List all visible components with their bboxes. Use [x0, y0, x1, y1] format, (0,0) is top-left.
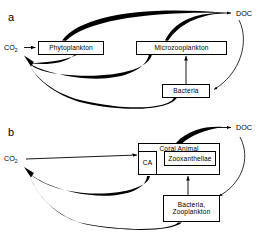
arrowhead-co2-a [24, 56, 34, 67]
node-microzooplankton-label: Microzooplankton [154, 44, 208, 51]
edge-co2-to-ca [26, 155, 137, 159]
node-bacteria-zooplankton-line2: Zooplankton [173, 208, 211, 215]
node-bacteria-label: Bacteria [173, 87, 198, 94]
edge-doc-to-bacteria [214, 20, 243, 90]
node-microzooplankton: Microzooplankton [136, 41, 227, 55]
node-phytoplankton-label: Phytoplankton [49, 44, 93, 51]
edge-bacteria-to-co2 [30, 65, 178, 109]
node-ca-label: CA [143, 159, 152, 166]
edge-coralanimal-to-doc [176, 127, 223, 144]
co2-label-a-sub: 2 [15, 47, 18, 53]
co2-label-b-sub: 2 [15, 158, 18, 164]
edge-phytoplankton-to-co2 [30, 55, 78, 65]
panel-letter-a: a [8, 11, 14, 23]
node-bacteria-zooplankton-line1: Bacteria, [178, 201, 205, 208]
node-zooxanthellae: Zooxanthellae [164, 151, 216, 166]
node-doc-b: DOC [236, 123, 252, 132]
edge-microzooplankton-to-co2 [30, 54, 152, 79]
edges-layer [0, 0, 271, 232]
node-phytoplankton: Phytoplankton [38, 41, 104, 55]
edge-bacteria-zooplankton-to-co2 [30, 175, 183, 230]
figure-canvas: a CO2 Phytoplankton Microzooplankton Bac… [0, 0, 271, 232]
node-bacteria: Bacteria [162, 84, 210, 98]
node-zooxanthellae-label: Zooxanthellae [168, 155, 211, 162]
node-co2-b: CO2 [4, 154, 18, 163]
edge-microzooplankton-to-doc [165, 13, 225, 41]
edge-coralanimal-to-co2 [30, 174, 150, 196]
co2-label-a-text: CO [4, 43, 15, 52]
node-ca: CA [138, 151, 157, 175]
node-doc-a: DOC [236, 9, 252, 18]
co2-label-b-text: CO [4, 154, 15, 163]
node-bacteria-zooplankton: Bacteria, Zooplankton [163, 195, 220, 222]
panel-letter-b: b [8, 126, 14, 138]
node-co2-a: CO2 [4, 43, 18, 52]
edge-doc-to-bacteria-zooplankton [219, 137, 245, 196]
